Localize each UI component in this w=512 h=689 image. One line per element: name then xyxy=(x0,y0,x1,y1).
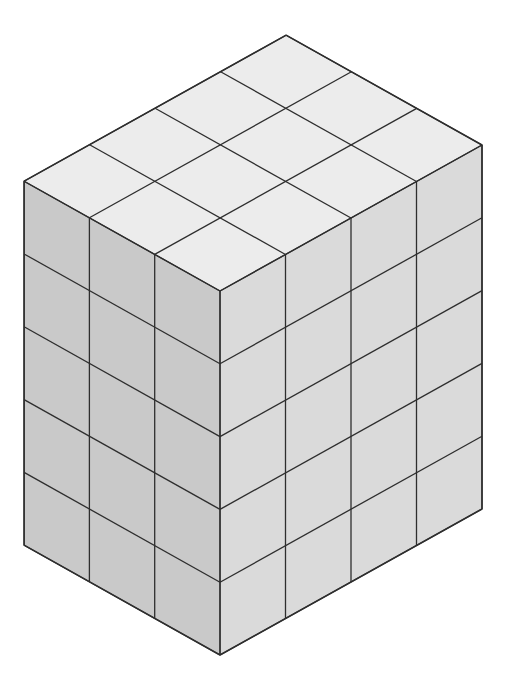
cube-prism-diagram xyxy=(0,0,512,689)
prism-svg xyxy=(0,0,512,689)
